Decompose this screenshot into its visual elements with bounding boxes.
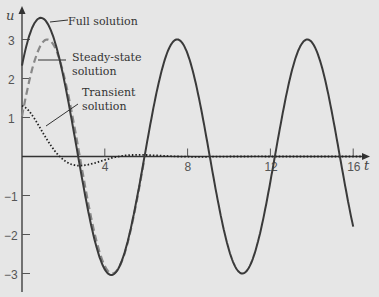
y-tick-label: −2 [4, 229, 18, 243]
t-axis-label: t [364, 158, 370, 173]
y-tick-label: −3 [4, 268, 18, 282]
y-tick-label: 3 [8, 34, 15, 48]
y-tick-label: 1 [8, 112, 15, 126]
u-axis-arrow-icon [19, 6, 26, 14]
steady-state-label-line1: Steady-state [72, 51, 142, 64]
x-tick-label: 16 [347, 160, 361, 174]
full-leader-line [50, 20, 68, 22]
transient-label-line1: Transient [82, 86, 136, 99]
y-tick-label: −1 [4, 190, 18, 204]
transient-label-line2: solution [82, 100, 127, 113]
x-tick-label: 4 [102, 160, 109, 174]
solution-chart: 481216−3−2−1123 t u Full solution Steady… [0, 0, 379, 297]
full-solution-label: Full solution [68, 15, 138, 28]
y-tick-label: 2 [8, 73, 15, 87]
u-axis-label: u [6, 8, 14, 23]
x-tick-label: 8 [185, 160, 192, 174]
axis-ticks: 481216−3−2−1123 [4, 34, 361, 282]
steady-state-label-line2: solution [72, 65, 117, 78]
